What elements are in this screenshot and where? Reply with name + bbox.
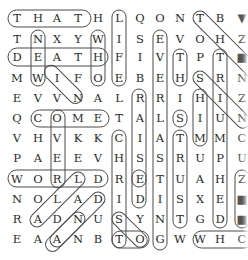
grid-cell[interactable]: U [232, 148, 248, 168]
grid-cell[interactable]: D [7, 47, 27, 67]
grid-cell[interactable]: A [68, 189, 88, 209]
grid-cell[interactable]: A [130, 108, 150, 128]
grid-cell[interactable]: D [88, 189, 108, 209]
grid-cell[interactable]: C [232, 229, 248, 249]
grid-cell[interactable]: I [109, 189, 129, 209]
grid-cell[interactable]: O [47, 108, 67, 128]
grid-cell[interactable]: N [28, 29, 48, 49]
grid-cell[interactable]: E [88, 108, 108, 128]
grid-cell[interactable]: H [170, 68, 190, 88]
grid-cell[interactable]: V [88, 148, 108, 168]
grid-cell[interactable]: Y [130, 209, 150, 229]
grid-cell[interactable]: I [150, 189, 170, 209]
grid-cell[interactable]: H [190, 88, 210, 108]
grid-cell[interactable]: E [109, 68, 129, 88]
grid-cell[interactable]: A [28, 229, 48, 249]
grid-cell[interactable]: K [88, 128, 108, 148]
grid-cell[interactable]: Q [130, 8, 150, 28]
grid-cell[interactable]: S [170, 189, 190, 209]
grid-cell[interactable]: E [28, 47, 48, 67]
grid-cell[interactable]: V [28, 88, 48, 108]
grid-cell[interactable]: E [130, 169, 150, 189]
grid-cell[interactable]: R [47, 169, 67, 189]
grid-cell[interactable]: T [68, 8, 88, 28]
grid-cell[interactable]: B [130, 68, 150, 88]
grid-cell[interactable]: T [170, 209, 190, 229]
grid-cell[interactable]: R [109, 169, 129, 189]
grid-cell[interactable]: W [88, 29, 108, 49]
grid-cell[interactable]: A [150, 128, 170, 148]
grid-cell[interactable]: N [170, 8, 190, 28]
grid-cell[interactable]: N [68, 88, 88, 108]
grid-cell[interactable]: L [109, 8, 129, 28]
grid-cell[interactable]: T [68, 47, 88, 67]
grid-cell[interactable]: U [170, 169, 190, 189]
grid-cell[interactable]: F [109, 47, 129, 67]
grid-cell[interactable]: S [130, 148, 150, 168]
grid-cell[interactable]: N [150, 209, 170, 229]
grid-cell[interactable]: H [88, 47, 108, 67]
grid-cell[interactable]: Z [232, 88, 248, 108]
grid-cell[interactable]: X [47, 29, 67, 49]
grid-cell[interactable]: C [28, 108, 48, 128]
grid-cell[interactable]: D [130, 189, 150, 209]
grid-cell[interactable]: S [109, 209, 129, 229]
grid-cell[interactable]: N [7, 189, 27, 209]
grid-cell[interactable]: O [190, 29, 210, 49]
grid-cell[interactable]: X [190, 189, 210, 209]
grid-cell[interactable]: I [170, 88, 190, 108]
grid-cell[interactable]: H [28, 128, 48, 148]
grid-cell[interactable]: F [68, 68, 88, 88]
grid-cell[interactable]: A [47, 229, 67, 249]
grid-cell[interactable]: M [68, 108, 88, 128]
grid-cell[interactable]: D [88, 169, 108, 189]
grid-cell[interactable]: E [150, 29, 170, 49]
grid-cell[interactable]: A [28, 148, 48, 168]
grid-cell[interactable]: Z [232, 169, 248, 189]
grid-cell[interactable]: V [7, 128, 27, 148]
grid-cell[interactable]: E [210, 189, 230, 209]
grid-cell[interactable]: H [210, 29, 230, 49]
grid-cell[interactable]: H [28, 8, 48, 28]
grid-cell[interactable]: L [68, 169, 88, 189]
grid-cell[interactable]: L [150, 108, 170, 128]
grid-cell[interactable]: T [109, 229, 129, 249]
grid-cell[interactable]: T [210, 47, 230, 67]
grid-cell[interactable]: P [7, 148, 27, 168]
grid-cell[interactable]: M [190, 128, 210, 148]
grid-cell[interactable]: ■ [232, 189, 248, 209]
grid-cell[interactable]: L [47, 189, 67, 209]
grid-cell[interactable]: R [210, 68, 230, 88]
grid-cell[interactable]: W [170, 229, 190, 249]
grid-cell[interactable]: U [190, 148, 210, 168]
grid-cell[interactable]: T [170, 47, 190, 67]
grid-cell[interactable]: V [47, 88, 67, 108]
grid-cell[interactable]: T [7, 29, 27, 49]
grid-cell[interactable]: G [150, 229, 170, 249]
grid-cell[interactable]: N [232, 68, 248, 88]
grid-cell[interactable]: Z [232, 29, 248, 49]
grid-cell[interactable]: H [210, 229, 230, 249]
grid-cell[interactable]: W [7, 169, 27, 189]
grid-cell[interactable]: O [28, 189, 48, 209]
grid-cell[interactable]: S [150, 148, 170, 168]
grid-cell[interactable]: Q [7, 108, 27, 128]
grid-cell[interactable]: G [190, 209, 210, 229]
grid-cell[interactable]: M [7, 68, 27, 88]
grid-cell[interactable]: T [170, 128, 190, 148]
grid-cell[interactable]: I [130, 47, 150, 67]
grid-cell[interactable]: R [7, 209, 27, 229]
grid-cell[interactable]: B [210, 8, 230, 28]
grid-cell[interactable]: Y [68, 29, 88, 49]
grid-cell[interactable]: R [150, 88, 170, 108]
grid-cell[interactable]: O [88, 68, 108, 88]
grid-cell[interactable]: D [47, 209, 67, 229]
grid-cell[interactable]: T [7, 8, 27, 28]
grid-cell[interactable]: U [88, 209, 108, 229]
grid-cell[interactable]: I [130, 128, 150, 148]
grid-cell[interactable]: O [130, 229, 150, 249]
grid-cell[interactable]: S [130, 29, 150, 49]
grid-cell[interactable]: I [109, 29, 129, 49]
grid-cell[interactable]: N [68, 209, 88, 229]
grid-cell[interactable]: H [88, 8, 108, 28]
